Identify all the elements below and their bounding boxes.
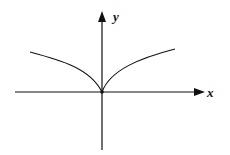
- y-axis-label: y: [111, 9, 119, 24]
- y-axis-arrow-icon: [98, 11, 106, 22]
- curve-right-branch: [102, 49, 175, 92]
- curve-left-branch: [30, 52, 102, 92]
- x-axis-arrow-icon: [194, 88, 205, 96]
- graph: y x: [0, 0, 230, 155]
- origin-point: [100, 90, 104, 94]
- x-axis-label: x: [206, 85, 214, 100]
